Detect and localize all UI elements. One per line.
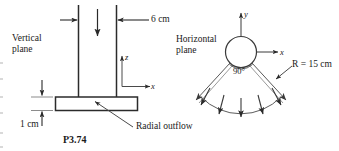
horizontal-plane-label-line1: Horizontal (176, 34, 217, 45)
figure-caption: P3.74 (63, 134, 87, 146)
deflector-plate (56, 97, 138, 111)
axis-label-x-vertical-plane: x (151, 81, 155, 91)
vertical-plane-label-line1: Vertical (12, 33, 42, 44)
scan-edge-artifact (0, 78, 3, 80)
axis-label-z: z (125, 52, 128, 62)
scan-edge-artifact (0, 132, 3, 134)
scan-edge-artifact (0, 96, 3, 98)
vertical-plane-label: Vertical plane (12, 33, 42, 55)
scan-edge-artifact (0, 146, 3, 148)
spray-arrows (201, 88, 281, 117)
radius-label: R = 15 cm (292, 59, 332, 70)
scan-edge-artifact (0, 62, 3, 64)
jet-circle (226, 37, 257, 68)
horizontal-plane-label: Horizontal plane (176, 34, 217, 56)
axis-label-x-horizontal-plane: x (280, 47, 284, 57)
angle-label: 90° (233, 66, 245, 76)
gap-height-label: 1 cm (20, 119, 39, 130)
radial-outflow-label: Radial outflow (136, 121, 193, 132)
figure-p3-74: Vertical plane 6 cm 1 cm z x Radial outf… (0, 0, 339, 151)
pipe-diameter-label: 6 cm (151, 14, 170, 25)
horizontal-plane-label-line2: plane (176, 45, 217, 56)
radius-leader (276, 66, 292, 79)
vertical-plane-label-line2: plane (12, 44, 42, 55)
axis-label-y: y (244, 9, 248, 19)
scan-edge-artifact (0, 112, 3, 114)
radial-outflow-leader (95, 102, 133, 128)
